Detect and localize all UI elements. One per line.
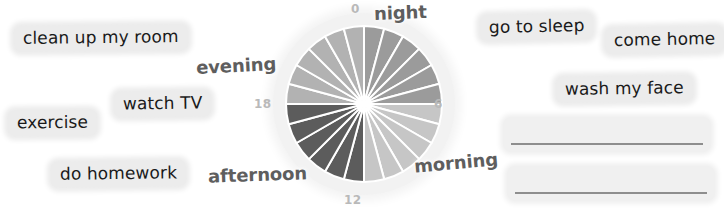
answer-line-1[interactable] <box>503 117 711 152</box>
hour-tick-18: 18 <box>254 97 271 111</box>
answer-line-2-rule <box>515 192 707 194</box>
word-chip-do-homework[interactable]: do homework <box>51 160 186 188</box>
period-label-evening: evening <box>196 53 277 78</box>
word-chip-come-home[interactable]: come home <box>605 26 724 54</box>
word-chip-go-to-sleep[interactable]: go to sleep <box>480 13 594 41</box>
hour-tick-12: 12 <box>344 193 361 207</box>
answer-line-2[interactable] <box>507 166 715 201</box>
period-label-afternoon: afternoon <box>208 162 308 186</box>
hour-tick-6: 6 <box>434 97 443 111</box>
pie-center-hub <box>361 101 368 108</box>
hour-tick-0: 0 <box>351 2 360 16</box>
answer-line-1-rule <box>511 143 703 145</box>
word-chip-clean-up-my-room[interactable]: clean up my room <box>14 24 188 52</box>
word-chip-wash-my-face[interactable]: wash my face <box>556 75 693 103</box>
period-label-night: night <box>374 1 427 24</box>
word-chip-watch-tv[interactable]: watch TV <box>114 90 212 117</box>
word-chip-exercise[interactable]: exercise <box>8 110 97 137</box>
